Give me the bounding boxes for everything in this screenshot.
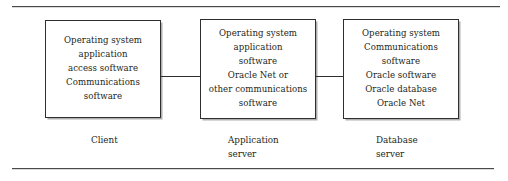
bottom-horizontal-rule <box>12 168 494 169</box>
client-node-text: Operating system application access soft… <box>64 34 142 104</box>
application-server-node-text: Operating system application software Or… <box>209 27 307 110</box>
application-server-node: Operating system application software Or… <box>200 19 316 119</box>
top-horizontal-rule <box>12 6 500 7</box>
database-server-node-text: Operating system Communications software… <box>362 27 440 110</box>
connector-client-to-application-server <box>160 76 201 77</box>
architecture-diagram: Operating system application access soft… <box>0 0 508 181</box>
database-server-caption: Database server <box>376 134 418 161</box>
client-caption: Client <box>91 134 118 148</box>
application-server-caption: Application server <box>228 134 279 161</box>
connector-application-server-to-database-server <box>315 76 344 77</box>
client-node: Operating system application access soft… <box>45 20 161 118</box>
database-server-node: Operating system Communications software… <box>343 19 459 119</box>
